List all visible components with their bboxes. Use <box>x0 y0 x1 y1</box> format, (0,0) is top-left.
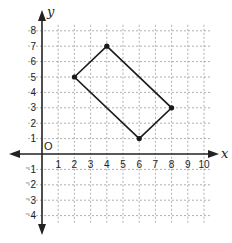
y-tick-label: 3 <box>30 102 36 113</box>
y-tick-label: 7 <box>30 41 36 52</box>
x-tick-label: 2 <box>72 159 78 170</box>
vertex-point <box>104 44 109 49</box>
x-tick-label: 10 <box>198 159 210 170</box>
x-tick-label: 3 <box>88 159 94 170</box>
coordinate-plane: 1234567891087654321⁻1⁻2⁻3⁻4 x y O <box>0 0 232 243</box>
y-axis-down-arrow-icon <box>38 224 46 235</box>
y-axis-label: y <box>46 4 55 19</box>
x-tick-label: 5 <box>120 159 126 170</box>
x-tick-label: 7 <box>153 159 159 170</box>
vertex-point <box>169 105 174 110</box>
y-tick-label: 5 <box>30 72 36 83</box>
y-tick-label: 8 <box>30 25 36 36</box>
grid-lines <box>28 25 212 223</box>
y-axis-up-arrow-icon <box>38 10 46 21</box>
y-tick-label: 2 <box>30 118 36 129</box>
x-axis-left-arrow-icon <box>9 150 20 158</box>
y-tick-label: 1 <box>30 133 36 144</box>
y-tick-label: ⁻3 <box>25 195 36 206</box>
y-tick-label: ⁻2 <box>25 179 36 190</box>
y-tick-label: ⁻4 <box>25 210 36 221</box>
x-axis-label: x <box>221 146 229 161</box>
x-tick-label: 4 <box>104 159 110 170</box>
x-tick-label: 9 <box>185 159 191 170</box>
vertex-point <box>137 136 142 141</box>
x-tick-label: 6 <box>136 159 142 170</box>
origin-label: O <box>44 140 53 152</box>
y-tick-label: 4 <box>30 87 36 98</box>
y-tick-label: 6 <box>30 56 36 67</box>
y-tick-label: ⁻1 <box>25 164 36 175</box>
x-tick-label: 8 <box>169 159 175 170</box>
x-axis-right-arrow-icon <box>208 150 219 158</box>
x-tick-label: 1 <box>55 159 61 170</box>
vertex-point <box>72 74 77 79</box>
